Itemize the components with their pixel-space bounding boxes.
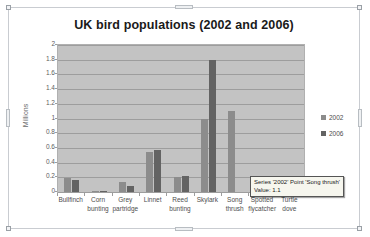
bars-layer[interactable]: [58, 45, 304, 192]
y-axis-tick-label: 0: [15, 188, 55, 195]
x-axis-label-song-thrush: Songthrush: [221, 196, 248, 214]
tooltip-line-value: Value: 1.1: [254, 186, 340, 194]
x-axis-label-turtle-dove: Turtledove: [276, 196, 303, 214]
bar-2006-skylark[interactable]: [209, 60, 216, 192]
bar-2006-reed-bunting[interactable]: [182, 176, 189, 192]
resize-handle-top-center[interactable]: [175, 5, 193, 9]
x-axis-tick-mark: [57, 193, 58, 196]
bar-2002-skylark[interactable]: [201, 119, 208, 193]
x-axis-tick-mark: [194, 193, 195, 196]
resize-handle-middle-left[interactable]: [6, 109, 10, 127]
y-axis-tick-label: 1: [15, 115, 55, 122]
y-axis-tick-labels: 00.20.40.60.811.21.41.61.82: [11, 44, 55, 193]
resize-handle-top-right[interactable]: [357, 5, 362, 10]
x-axis-label-spotted-flycatcher: Spottedflycatcher: [248, 196, 275, 214]
resize-handle-bottom-right[interactable]: [357, 226, 362, 231]
x-axis-category-labels: BullfinchCornbuntingGreypartridgeLinnetR…: [57, 196, 305, 226]
legend-label: 2002: [329, 114, 343, 121]
legend-item-2002[interactable]: 2002: [321, 114, 343, 121]
y-axis-tick-label: 1.8: [15, 56, 55, 63]
legend-item-2006[interactable]: 2006: [321, 130, 343, 137]
chart-title: UK bird populations (2002 and 2006): [9, 18, 359, 32]
y-axis-tick-label: 0.8: [15, 129, 55, 136]
x-axis-tick-mark: [221, 193, 222, 196]
bar-2002-corn-bunting[interactable]: [92, 191, 99, 192]
y-axis-tick-label: 0.6: [15, 144, 55, 151]
bar-2006-grey-partridge[interactable]: [127, 186, 134, 192]
plot-area[interactable]: [57, 44, 305, 193]
resize-handle-bottom-center[interactable]: [175, 227, 193, 231]
chart-legend: 20022006: [321, 114, 343, 146]
bar-2006-corn-bunting[interactable]: [100, 191, 107, 192]
bar-2002-linnet[interactable]: [146, 152, 153, 192]
x-axis-label-linnet: Linnet: [139, 196, 166, 205]
bar-2002-reed-bunting[interactable]: [174, 177, 181, 192]
legend-label: 2006: [329, 130, 343, 137]
chart-object[interactable]: UK bird populations (2002 and 2006) Mill…: [8, 7, 360, 229]
y-axis-tick-label: 2: [15, 41, 55, 48]
legend-swatch-icon: [321, 115, 326, 120]
resize-handle-bottom-left[interactable]: [6, 226, 11, 231]
bar-2002-bullfinch[interactable]: [64, 178, 71, 192]
y-axis-tick-label: 1.6: [15, 70, 55, 77]
x-axis-label-bullfinch: Bullfinch: [57, 196, 84, 205]
x-axis-label-grey-partridge: Greypartridge: [112, 196, 139, 214]
bar-2006-linnet[interactable]: [154, 150, 161, 192]
y-axis-tick-label: 0.2: [15, 173, 55, 180]
bar-2002-grey-partridge[interactable]: [119, 182, 126, 192]
x-axis-tick-mark: [112, 193, 113, 196]
x-axis-tick-mark: [139, 193, 140, 196]
bar-2006-bullfinch[interactable]: [72, 180, 79, 192]
resize-handle-middle-right[interactable]: [358, 109, 362, 127]
bar-2002-song-thrush[interactable]: [228, 111, 235, 192]
y-axis-tick-label: 1.4: [15, 85, 55, 92]
datapoint-tooltip: Series '2002' Point 'Song thrush' Value:…: [250, 176, 344, 197]
tooltip-line-series: Series '2002' Point 'Song thrush': [254, 178, 340, 186]
y-axis-tick-label: 0.4: [15, 159, 55, 166]
legend-swatch-icon: [321, 131, 326, 136]
x-axis-tick-mark: [84, 193, 85, 196]
x-axis-label-skylark: Skylark: [194, 196, 221, 205]
x-axis-label-corn-bunting: Cornbunting: [84, 196, 111, 214]
y-axis-tick-label: 1.2: [15, 100, 55, 107]
x-axis-tick-mark: [166, 193, 167, 196]
x-axis-label-reed-bunting: Reedbunting: [166, 196, 193, 214]
resize-handle-top-left[interactable]: [6, 5, 11, 10]
